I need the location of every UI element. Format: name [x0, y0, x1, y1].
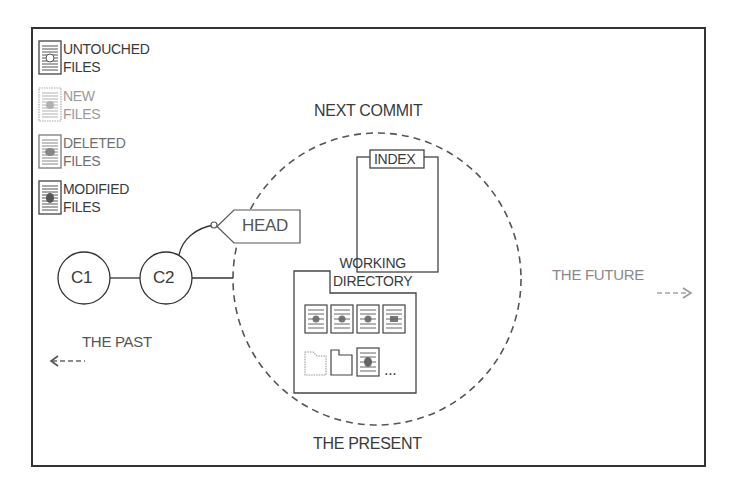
past-arrow-icon — [51, 356, 85, 366]
wd-file-2 — [331, 305, 353, 333]
wd-file-5 — [357, 348, 379, 376]
legend-new-line1: NEW — [63, 87, 100, 105]
the-present-label: THE PRESENT — [313, 434, 422, 453]
head-string — [179, 225, 214, 255]
commit-c1-label: C1 — [71, 268, 92, 287]
legend-new-line2: FILES — [63, 105, 100, 123]
legend-modified-line2: FILES — [63, 198, 129, 216]
the-future-label: THE FUTURE — [552, 265, 644, 284]
head-label: HEAD — [242, 216, 288, 235]
working-directory-line1: WORKING — [333, 254, 412, 272]
working-directory-line2: DIRECTORY — [333, 272, 412, 290]
working-directory-label: WORKING DIRECTORY — [333, 254, 412, 290]
wd-file-3 — [357, 305, 379, 333]
legend-new: NEW FILES — [38, 87, 100, 123]
more-files-ellipsis: ... — [384, 360, 396, 379]
legend-modified: MODIFIED FILES — [38, 180, 129, 216]
legend-deleted: DELETED FILES — [38, 134, 125, 170]
legend-untouched-line1: UNTOUCHED — [63, 40, 150, 58]
legend-modified-line1: MODIFIED — [63, 180, 129, 198]
legend-deleted-line2: FILES — [63, 152, 125, 170]
legend-untouched-line2: FILES — [63, 58, 150, 76]
legend-untouched: UNTOUCHED FILES — [38, 40, 150, 76]
future-arrow-icon — [657, 288, 691, 298]
next-commit-label: NEXT COMMIT — [314, 101, 422, 120]
wd-file-1 — [305, 305, 327, 333]
index-label: INDEX — [374, 150, 415, 169]
commit-c2-label: C2 — [153, 268, 174, 287]
wd-file-4 — [383, 305, 405, 333]
legend-deleted-line1: DELETED — [63, 134, 125, 152]
the-past-label: THE PAST — [82, 332, 152, 351]
